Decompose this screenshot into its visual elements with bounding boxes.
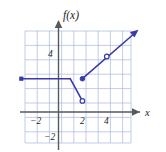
left-ray-endpoint [19,77,23,81]
x-axis-label: x [144,107,150,118]
y-tick-label-neg2: −2 [44,132,55,142]
descending-segment [70,79,82,101]
axes [20,22,140,150]
function-curve [22,33,136,101]
open-circle-marker-high [105,54,110,59]
y-tick-label-4: 4 [48,49,53,59]
x-tick-label-4: 4 [104,116,109,126]
piecewise-function-figure: f(x) x −2 2 4 4 −2 [0,0,166,152]
y-axis-arrowhead [55,20,63,28]
x-tick-label-neg2: −2 [30,116,41,126]
x-tick-label-2: 2 [80,116,85,126]
y-axis-label: f(x) [63,9,79,22]
closed-circle-marker [80,76,85,81]
x-axis-arrowhead [132,108,140,116]
open-circle-marker-low [80,99,85,104]
graph-canvas: f(x) x −2 2 4 4 −2 [0,0,166,152]
grid-lines [25,31,131,143]
